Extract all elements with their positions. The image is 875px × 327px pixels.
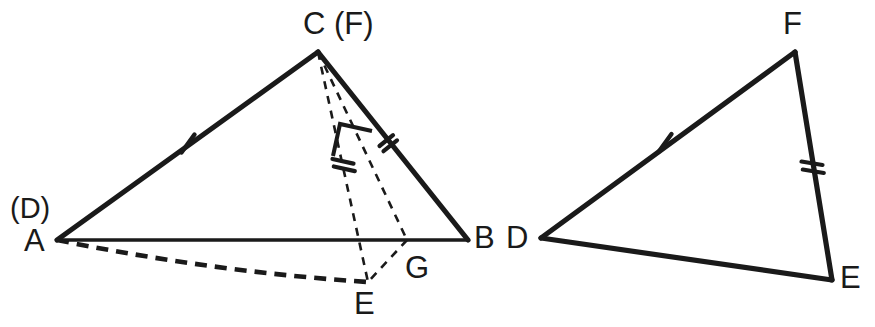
label-vertex-A: A	[24, 225, 45, 256]
segment-A-E	[57, 240, 368, 282]
label-vertex-D: D	[506, 222, 528, 253]
label-vertex-B: B	[474, 222, 495, 253]
label-A-alias: (D)	[10, 194, 50, 223]
segment-F-E	[795, 52, 832, 280]
left-figure-group	[57, 52, 468, 282]
right-figure-group	[541, 52, 832, 280]
segment-D-F	[541, 52, 795, 238]
geometry-figure: (D) A B C (F) E G D E F	[0, 0, 875, 327]
label-vertex-E-left: E	[354, 288, 375, 319]
label-vertex-G: G	[405, 252, 429, 283]
geometry-canvas	[0, 0, 875, 327]
segment-G-E	[368, 240, 407, 282]
segment-D-E	[541, 238, 832, 280]
label-vertex-C: C (F)	[303, 8, 374, 39]
label-vertex-F: F	[783, 8, 802, 39]
tick-mark-CE	[333, 159, 355, 171]
label-vertex-E-right: E	[840, 262, 861, 293]
